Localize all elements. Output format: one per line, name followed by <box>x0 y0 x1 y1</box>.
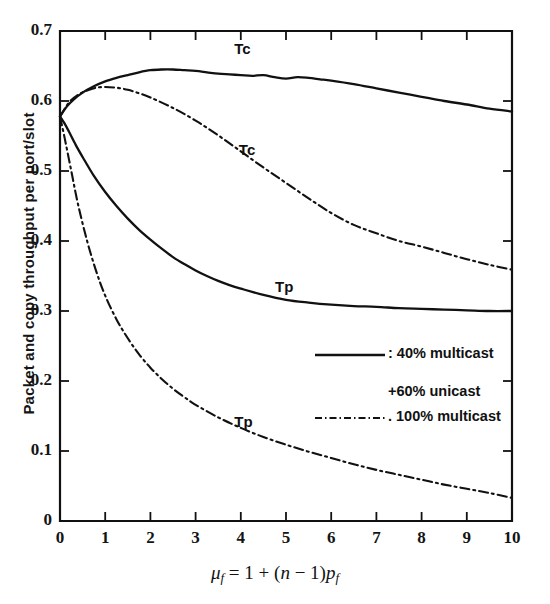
y-tick-label: 0.7 <box>0 20 52 40</box>
curve-label-tc-0: Tc <box>234 40 250 57</box>
legend-entry-1: +60% unicast <box>388 383 480 399</box>
legend-entry-0: : 40% multicast <box>388 345 494 361</box>
x-tick-label: 7 <box>351 528 401 548</box>
curve-label-tc-1: Tc <box>239 141 255 158</box>
x-tick-label: 8 <box>397 528 447 548</box>
x-tick-label: 1 <box>80 528 130 548</box>
axis-frame <box>60 31 512 521</box>
plot-svg <box>0 0 550 604</box>
curve-label-tp-2: Tp <box>275 278 293 295</box>
legend-entry-2: . 100% multicast <box>388 408 501 424</box>
curve-Tc-100 <box>60 87 512 270</box>
x-tick-label: 5 <box>261 528 311 548</box>
x-tick-label: 2 <box>125 528 175 548</box>
curve-label-tp-3: Tp <box>234 413 252 430</box>
y-tick-label: 0.5 <box>0 160 52 180</box>
y-tick-label: 0.1 <box>0 440 52 460</box>
curve-Tc <box>60 69 512 116</box>
y-tick-label: 0 <box>0 510 52 530</box>
y-tick-label: 0.4 <box>0 230 52 250</box>
x-tick-label: 0 <box>35 528 85 548</box>
y-tick-label: 0.6 <box>0 90 52 110</box>
y-tick-label: 0.2 <box>0 370 52 390</box>
tick-marks <box>60 31 512 521</box>
x-tick-label: 4 <box>216 528 266 548</box>
curve-Tp-100 <box>60 116 512 498</box>
x-tick-label: 3 <box>171 528 221 548</box>
y-tick-label: 0.3 <box>0 300 52 320</box>
x-tick-label: 10 <box>487 528 537 548</box>
x-tick-label: 6 <box>306 528 356 548</box>
figure-chart: Packet and copy throughput per port/slot… <box>0 0 550 604</box>
x-tick-label: 9 <box>442 528 492 548</box>
